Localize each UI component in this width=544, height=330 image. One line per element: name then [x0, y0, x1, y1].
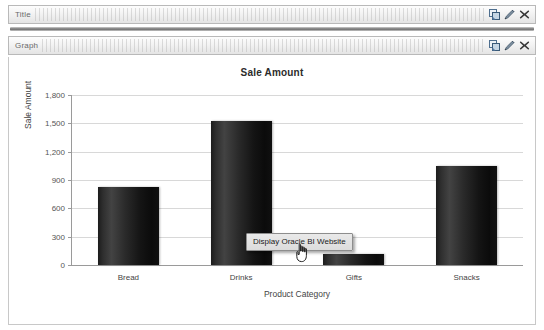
bar-snacks[interactable] — [436, 166, 497, 265]
section-bar-title-texture — [35, 8, 485, 21]
y-axis-tick — [68, 180, 72, 181]
gridline — [72, 152, 523, 153]
y-axis-tick — [68, 123, 72, 124]
section-bar-graph-texture — [42, 39, 485, 52]
y-axis-tick-label: 600 — [52, 204, 65, 213]
pencil-icon[interactable] — [504, 6, 515, 24]
x-axis-tick-label: Snacks — [454, 273, 480, 282]
x-axis-tick-label: Drinks — [230, 273, 253, 282]
y-axis-tick — [68, 265, 72, 266]
pencil-icon[interactable] — [504, 37, 515, 55]
gridline — [72, 95, 523, 96]
section-bar-graph-actions — [489, 37, 530, 55]
y-axis-tick-label: 1,800 — [45, 91, 65, 100]
section-bar-title-actions — [489, 6, 530, 24]
y-axis-tick-label: 1,200 — [45, 147, 65, 156]
y-axis-tick-label: 900 — [52, 176, 65, 185]
x-axis-title: Product Category — [71, 289, 523, 299]
y-axis-tick — [68, 208, 72, 209]
close-icon[interactable] — [519, 37, 530, 55]
y-axis-tick — [68, 95, 72, 96]
section-bar-graph[interactable]: Graph — [8, 36, 536, 55]
chart-title: Sale Amount — [9, 67, 535, 78]
gridline — [72, 123, 523, 124]
tooltip: Display Oracle BI Website — [246, 233, 353, 251]
y-axis-tick-label: 300 — [52, 232, 65, 241]
x-axis-tick-label: Gifts — [346, 273, 362, 282]
duplicate-icon[interactable] — [489, 6, 500, 24]
graph-panel[interactable]: Sale Amount Sale Amount 03006009001,2001… — [8, 57, 536, 325]
report-editor-frame: Title — [8, 5, 536, 325]
section-bar-title-label: Title — [15, 10, 31, 19]
section-bar-graph-label: Graph — [15, 41, 38, 50]
bar-bread[interactable] — [98, 187, 159, 265]
y-axis-tick — [68, 237, 72, 238]
duplicate-icon[interactable] — [489, 37, 500, 55]
y-axis-tick-label: 1,500 — [45, 119, 65, 128]
y-axis-tick-label: 0 — [61, 261, 65, 270]
section-bar-title[interactable]: Title — [8, 5, 536, 24]
close-icon[interactable] — [519, 6, 530, 24]
y-axis-title: Sale Amount — [23, 81, 33, 129]
y-axis-tick — [68, 152, 72, 153]
bar-gifts[interactable] — [323, 254, 384, 265]
x-axis-tick-label: Bread — [118, 273, 139, 282]
title-section-divider — [10, 27, 534, 31]
